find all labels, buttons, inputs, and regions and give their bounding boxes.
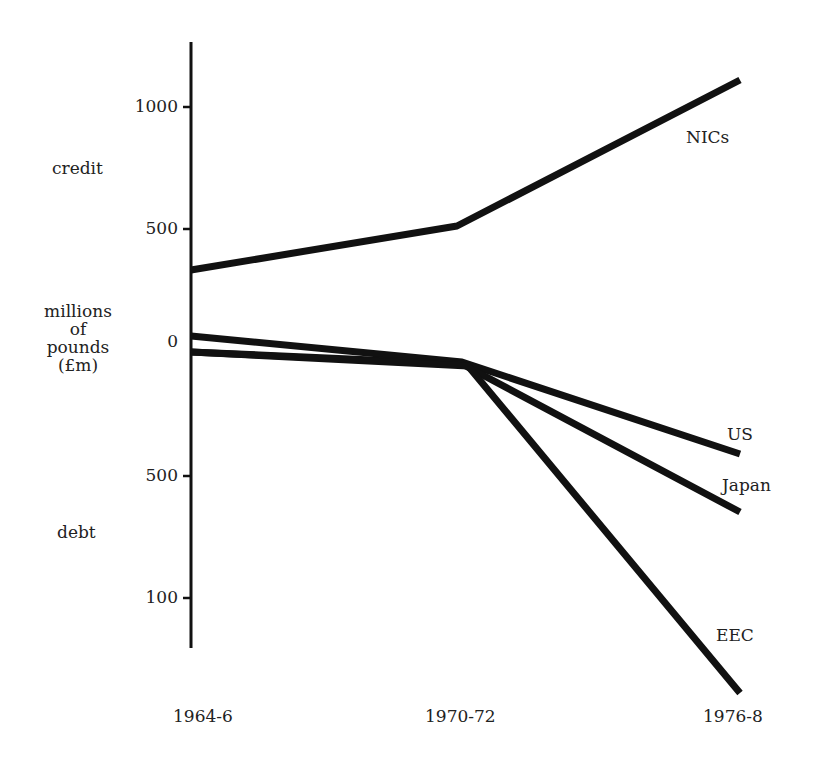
y-tick-1000: 1000 [118,96,178,116]
units-line: (£m) [33,356,123,374]
x-tick-1964: 1964-6 [173,706,233,726]
series-label-eec: EEC [716,625,754,645]
y-tick-0: 0 [118,331,178,351]
series-label-japan: Japan [722,475,771,495]
y-tick-100: 100 [118,587,178,607]
x-tick-1970: 1970-72 [425,706,496,726]
series-label-us: US [727,424,753,444]
credit-label: credit [52,158,103,178]
x-tick-1976: 1976-8 [703,706,763,726]
series-japan-line [191,352,740,512]
units-line: millions [33,302,123,320]
debt-label: debt [57,522,96,542]
units-label: millions of pounds (£m) [33,302,123,374]
series-nics-line [191,80,740,270]
series-label-nics: NICs [686,127,729,147]
series-eec-line [191,352,740,693]
units-line: pounds [33,338,123,356]
units-line: of [33,320,123,338]
y-tick-500-debt: 500 [118,465,178,485]
y-tick-500-credit: 500 [118,218,178,238]
